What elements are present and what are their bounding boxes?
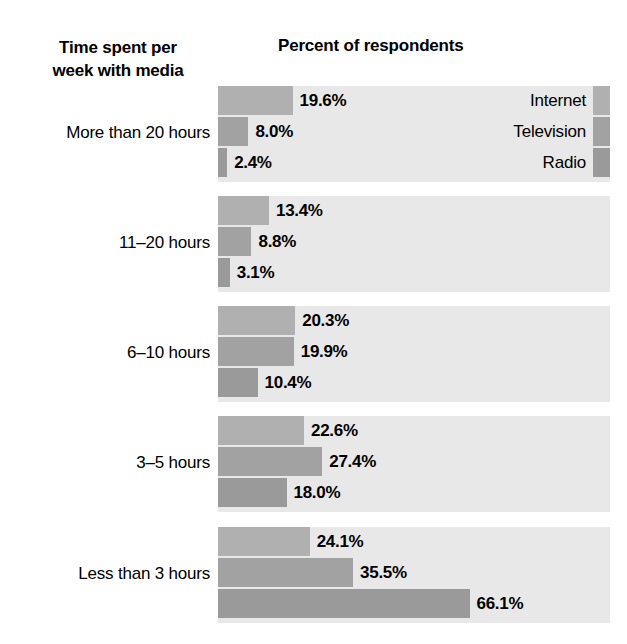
bar-value-label: 3.1% (237, 258, 275, 287)
bar-value-label: 10.4% (265, 368, 312, 397)
bar-group: 22.6%27.4%18.0% (218, 416, 610, 512)
legend-swatch-radio (593, 148, 610, 177)
category-label: 11–20 hours (0, 233, 210, 253)
bar-internet (218, 196, 269, 225)
category-label: 3–5 hours (0, 453, 210, 473)
bar-group: 24.1%35.5%66.1% (218, 527, 610, 623)
bar-radio (218, 589, 470, 618)
bar-television (218, 337, 294, 366)
bar-value-label: 8.8% (258, 227, 296, 256)
bar-value-label: 66.1% (477, 589, 524, 618)
bar-radio (218, 258, 230, 287)
bar-value-label: 22.6% (311, 416, 358, 445)
bar-value-label: 24.1% (317, 527, 364, 556)
bar-value-label: 19.6% (300, 86, 347, 115)
bar-television (218, 447, 322, 476)
bar-television (218, 117, 248, 146)
bar-group: 13.4%8.8%3.1% (218, 196, 610, 292)
bar-television (218, 558, 353, 587)
bar-value-label: 2.4% (234, 148, 272, 177)
category-label: 6–10 hours (0, 343, 210, 363)
bar-value-label: 13.4% (276, 196, 323, 225)
legend-swatch-internet (593, 86, 610, 115)
bar-radio (218, 148, 227, 177)
bar-value-label: 19.9% (301, 337, 348, 366)
category-label: More than 20 hours (0, 123, 210, 143)
category-label: Less than 3 hours (0, 564, 210, 584)
legend-label-radio: Radio (543, 148, 586, 177)
bar-group: 20.3%19.9%10.4% (218, 306, 610, 402)
bar-value-label: 27.4% (329, 447, 376, 476)
bar-internet (218, 527, 310, 556)
bar-radio (218, 368, 258, 397)
bar-internet (218, 306, 295, 335)
legend-swatch-television (593, 117, 610, 146)
bar-television (218, 227, 251, 256)
bar-value-label: 35.5% (360, 558, 407, 587)
bar-value-label: 18.0% (294, 478, 341, 507)
bar-internet (218, 86, 293, 115)
bar-value-label: 20.3% (302, 306, 349, 335)
bar-group: 19.6%8.0%2.4%InternetTelevisionRadio (218, 86, 610, 182)
bar-internet (218, 416, 304, 445)
legend-label-television: Television (513, 117, 586, 146)
bar-chart: 19.6%8.0%2.4%InternetTelevisionRadioMore… (0, 0, 627, 644)
legend-label-internet: Internet (530, 86, 586, 115)
bar-radio (218, 478, 287, 507)
bar-value-label: 8.0% (255, 117, 293, 146)
